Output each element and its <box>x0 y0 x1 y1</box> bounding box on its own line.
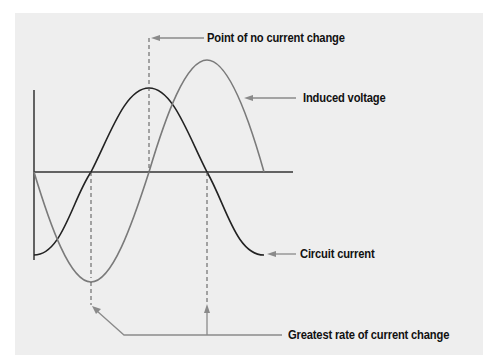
label-circuit-current: Circuit current <box>300 246 374 261</box>
arrowhead-icon <box>151 35 160 41</box>
arrowhead-icon <box>244 95 253 101</box>
label-point-of-no-current-change: Point of no current change <box>207 30 345 45</box>
label-induced-voltage: Induced voltage <box>303 90 386 105</box>
label-greatest-rate-of-current-change: Greatest rate of current change <box>288 327 449 342</box>
waveform-diagram <box>0 0 500 361</box>
arrowhead-icon <box>267 251 276 257</box>
arrowhead-icon <box>204 304 210 313</box>
